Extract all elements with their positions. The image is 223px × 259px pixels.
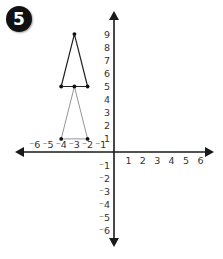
y-tick-label: ⁻2 — [99, 173, 110, 184]
y-tick-label: ⁻1 — [99, 160, 110, 171]
problem-number-badge: 5 — [6, 6, 32, 32]
coordinate-plane: ⁻6⁻5⁻4⁻3⁻2⁻1123456987654321⁻1⁻2⁻3⁻4⁻5⁻6 — [0, 0, 223, 259]
y-tick-label: 4 — [104, 94, 110, 105]
x-tick-label: ⁻5 — [42, 139, 53, 150]
x-axis-right-arrow-icon — [205, 147, 214, 157]
x-tick-label: 4 — [169, 155, 175, 166]
y-tick-label: ⁻5 — [99, 212, 110, 223]
vertex-point — [59, 85, 63, 89]
y-tick-label: 2 — [104, 120, 110, 131]
y-tick-label: 8 — [104, 42, 110, 53]
x-axis-left-arrow-icon — [15, 147, 24, 157]
y-tick-label: ⁻4 — [99, 199, 110, 210]
vertex-point — [86, 137, 90, 141]
lower-triangle — [61, 87, 87, 139]
y-tick-label: 6 — [104, 68, 110, 79]
y-tick-label: 7 — [104, 55, 110, 66]
x-tick-label: 5 — [183, 155, 189, 166]
x-tick-label: 1 — [125, 155, 131, 166]
y-tick-label: ⁻3 — [99, 186, 110, 197]
y-tick-label: 3 — [104, 107, 110, 118]
y-axis-down-arrow-icon — [109, 238, 119, 247]
vertex-point — [73, 85, 77, 89]
x-tick-label: 3 — [154, 155, 160, 166]
y-tick-label: 1 — [104, 133, 110, 144]
x-tick-label: 2 — [140, 155, 146, 166]
vertex-point — [73, 32, 77, 36]
x-tick-label: 6 — [197, 155, 203, 166]
y-tick-label: 5 — [104, 81, 110, 92]
x-tick-label: ⁻6 — [29, 139, 40, 150]
vertex-point — [86, 85, 90, 89]
upper-triangle — [61, 34, 87, 86]
y-axis-up-arrow-icon — [109, 11, 119, 20]
y-tick-label: 9 — [104, 29, 110, 40]
vertex-point — [59, 137, 63, 141]
coordinate-diagram: 5 ⁻6⁻5⁻4⁻3⁻2⁻1123456987654321⁻1⁻2⁻3⁻4⁻5⁻… — [0, 0, 223, 259]
y-tick-label: ⁻6 — [99, 225, 110, 236]
x-tick-label: ⁻3 — [69, 139, 80, 150]
